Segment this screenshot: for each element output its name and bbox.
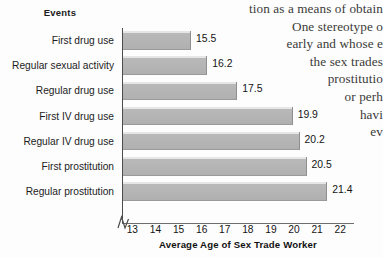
x-axis-tick-label: 15	[173, 224, 184, 235]
category-label: Regular drug use	[0, 78, 118, 103]
bar	[123, 107, 293, 125]
bar-row: 16.2	[122, 53, 354, 78]
x-axis-tick-label: 18	[242, 224, 253, 235]
bar-row: 20.5	[122, 154, 354, 179]
x-axis-tick-label: 17	[219, 224, 230, 235]
plot-area: 15.516.217.519.920.220.521.4	[122, 28, 354, 224]
x-axis-tick-label: 22	[334, 224, 345, 235]
bar-row: 17.5	[122, 78, 354, 103]
x-axis-title: Average Age of Sex Trade Worker	[122, 239, 354, 250]
category-label: Regular sexual activity	[0, 53, 118, 78]
bar	[123, 56, 207, 74]
bar-chart: Events First drug useRegular sexual acti…	[0, 0, 383, 257]
bar	[123, 82, 237, 100]
bar-value-label: 21.4	[332, 184, 352, 195]
category-axis-title: Events	[0, 7, 120, 18]
bar-value-label: 20.5	[312, 159, 332, 170]
category-label: Regular prostitution	[0, 179, 118, 204]
bar-value-label: 15.5	[196, 33, 216, 44]
x-axis-tick-labels: 13141516171819202122	[122, 224, 354, 238]
bar-row: 15.5	[122, 28, 354, 53]
bar-value-label: 17.5	[242, 83, 262, 94]
bar-series: 15.516.217.519.920.220.521.4	[122, 28, 354, 204]
category-label: Regular IV drug use	[0, 129, 118, 154]
bar-value-label: 16.2	[212, 58, 232, 69]
x-axis-tick-label: 19	[265, 224, 276, 235]
category-label: First prostitution	[0, 154, 118, 179]
bar	[123, 31, 191, 49]
category-label-list: First drug useRegular sexual activityReg…	[0, 28, 118, 204]
x-axis-tick-label: 13	[127, 224, 138, 235]
bar-row: 19.9	[122, 104, 354, 129]
bar-value-label: 19.9	[298, 109, 318, 120]
bar	[123, 157, 307, 175]
bar	[123, 182, 327, 200]
x-axis-tick-label: 14	[150, 224, 161, 235]
x-axis-tick-label: 16	[196, 224, 207, 235]
bar-row: 21.4	[122, 179, 354, 204]
x-axis-tick-label: 21	[311, 224, 322, 235]
bar	[123, 132, 300, 150]
bar-row: 20.2	[122, 129, 354, 154]
category-label: First IV drug use	[0, 104, 118, 129]
x-axis-tick-label: 20	[288, 224, 299, 235]
category-label: First drug use	[0, 28, 118, 53]
bar-value-label: 20.2	[305, 134, 325, 145]
